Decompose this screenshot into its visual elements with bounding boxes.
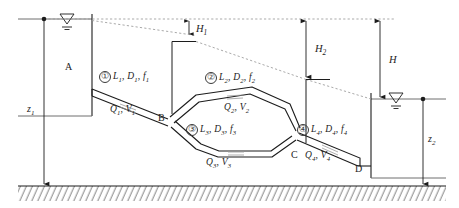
pipe-4-geometry-label: ④L4, D4, f4: [297, 124, 347, 137]
pipe-3-number-icon: ③: [186, 124, 198, 136]
pipe-4-velocity-subscript: 4: [327, 155, 331, 162]
pipe-2-diameter-subscript: 2: [240, 77, 244, 84]
ground-datum: [18, 186, 446, 201]
dimension-z2: [421, 97, 426, 184]
pipe-3-length-subscript: 3: [205, 129, 209, 136]
pipe-3-diameter-subscript: 3: [221, 129, 225, 136]
water-surface-symbol-d: [389, 93, 403, 109]
pipe-network-figure: A z1 z2 H1 H2 H B C D ①L1, D1, f1 Q1, V1…: [0, 0, 459, 208]
water-surface-symbol-a: [60, 14, 74, 30]
pipe-4-discharge-subscript: 4: [312, 155, 316, 162]
pipe-2-discharge-subscript: 2: [231, 107, 235, 114]
total-head-h-label: H: [389, 55, 397, 66]
elevation-z2-label: z2: [428, 134, 435, 147]
node-label-c: C: [291, 150, 298, 160]
head-loss-h1-label: H1: [196, 24, 207, 36]
pipe-2-number-icon: ②: [205, 72, 217, 84]
pipe-3-flow-label: Q3, V3: [206, 158, 231, 170]
elevation-z1-label: z1: [27, 104, 34, 117]
node-label-b: B: [158, 113, 165, 123]
node-label-d: D: [355, 164, 362, 174]
elevation-z2-subscript: 2: [432, 139, 436, 147]
pipe-1-discharge-subscript: 1: [117, 109, 121, 116]
pipe-1-diameter-subscript: 1: [134, 76, 138, 83]
pipe-4-length-subscript: 4: [316, 129, 320, 136]
pipe-4-diameter-subscript: 4: [332, 129, 336, 136]
elevation-z1-subscript: 1: [31, 109, 35, 117]
pipe-1-number-icon: ①: [99, 71, 111, 83]
head-loss-h1-subscript: 1: [204, 28, 208, 37]
pipe-3-velocity-subscript: 3: [228, 162, 232, 169]
reservoir-a-walls: [18, 14, 92, 116]
pipe-2-friction-subscript: 2: [252, 77, 256, 84]
pipe-3-discharge-subscript: 3: [213, 162, 217, 169]
head-loss-h2-label: H2: [315, 44, 326, 56]
pipe-1-velocity-subscript: 1: [132, 109, 136, 116]
dimension-z1: [42, 17, 47, 184]
pipe-3-friction-subscript: 3: [233, 129, 237, 136]
reservoir-label-a: A: [65, 62, 72, 72]
pipe-1-length-subscript: 1: [118, 76, 122, 83]
pipe-3-geometry-label: ③L3, D3, f3: [186, 124, 236, 137]
pipe-2-flow-label: Q2, V2: [224, 103, 249, 115]
pipe-2-length-subscript: 2: [224, 77, 228, 84]
pipe-1-friction-subscript: 1: [146, 76, 150, 83]
pipe-1-flow-label: Q1, V1: [110, 105, 135, 117]
pipe-2-geometry-label: ②L2, D2, f2: [205, 72, 255, 85]
pipe-1-geometry-label: ①L1, D1, f1: [99, 71, 149, 84]
pipe-4-friction-subscript: 4: [344, 129, 348, 136]
pipe-2-velocity-subscript: 2: [246, 107, 250, 114]
piezometer-standpipe-b: [172, 42, 196, 115]
pipe-4-flow-label: Q4, V4: [305, 151, 330, 163]
pipe-4-number-icon: ④: [297, 124, 309, 136]
hydraulic-grade-lines: [44, 19, 396, 99]
head-loss-h2-subscript: 2: [323, 48, 327, 57]
